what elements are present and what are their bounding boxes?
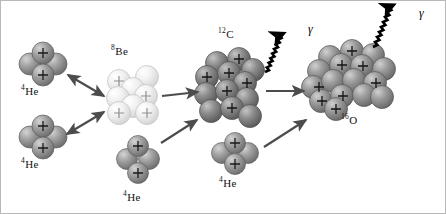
arrow-he4-to-o16 [264, 120, 306, 147]
element-symbol: He [25, 158, 38, 170]
nucleus-he4-bottom-middle [117, 136, 160, 184]
label-he4-bottom-middle: 4He [123, 191, 141, 203]
element-symbol: O [349, 114, 357, 126]
label-be8: 8Be [111, 45, 128, 57]
nucleus-o16 [302, 40, 396, 121]
element-symbol: He [25, 85, 38, 97]
arrow-gamma-from-o16 [373, 5, 393, 47]
nucleus-he4-bottom-left [19, 115, 67, 159]
label-he4-bottom-left: 4He [21, 158, 39, 170]
label-c12: 12C [218, 28, 234, 40]
label-gamma-from-o16: γ [419, 6, 424, 21]
reaction-diagram-canvas: 4He 8Be 4He 4He 12C 4He 16O γ γ [0, 0, 446, 214]
label-o16: 16O [341, 114, 357, 126]
arrow-he4-to-be8-upper [68, 75, 104, 96]
element-symbol: C [226, 28, 234, 40]
nucleus-he4-bottom-right [212, 133, 259, 175]
arrow-be8-to-c12 [162, 92, 198, 96]
arrow-he4-to-c12 [161, 120, 197, 143]
element-symbol: He [127, 191, 140, 203]
arrow-he4-to-be8-lower [67, 112, 104, 134]
element-symbol: He [223, 177, 236, 189]
mass-number: 12 [218, 26, 226, 35]
label-gamma-from-c12: γ [308, 22, 313, 37]
nucleus-he4-top-left [19, 42, 67, 86]
label-he4-top-left: 4He [21, 85, 39, 97]
arrow-gamma-from-c12 [265, 33, 283, 72]
element-symbol: Be [115, 45, 128, 57]
label-he4-bottom-right: 4He [219, 177, 237, 189]
mass-number: 16 [341, 112, 349, 121]
nucleus-be8 [107, 66, 159, 125]
nucleus-c12 [195, 48, 265, 128]
